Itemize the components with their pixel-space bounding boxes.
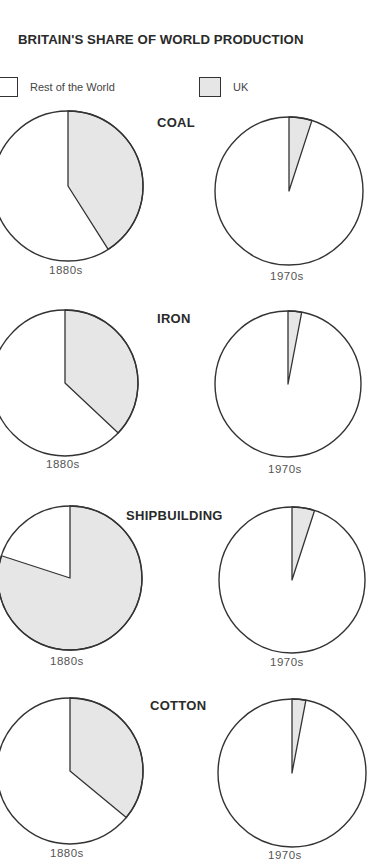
pie-cotton-1970s [218, 699, 366, 847]
pie-shipbuilding-1880s [0, 506, 142, 650]
pie-iron-1970s [215, 311, 361, 457]
pie-charts [0, 0, 374, 862]
pie-cotton-1880s [0, 698, 143, 844]
pie-shipbuilding-1970s [219, 507, 365, 653]
pie-coal-1970s [215, 117, 363, 265]
pie-coal-1880s [0, 111, 143, 261]
pie-iron-1880s [0, 310, 138, 456]
